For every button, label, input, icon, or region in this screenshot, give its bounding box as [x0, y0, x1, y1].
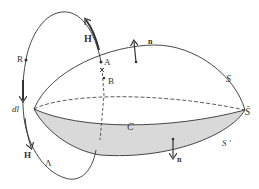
point-r: [25, 59, 28, 62]
point-b: [103, 77, 105, 79]
label-lambda: Λ: [45, 158, 52, 168]
normal-top-arrow: [134, 42, 136, 62]
label-dl: dl: [12, 104, 20, 114]
label-s-prime: S ': [222, 138, 232, 148]
label-a-top: A: [104, 57, 111, 67]
surface-s-prime: [34, 109, 245, 156]
boundary-c-back: [34, 97, 245, 110]
diagram-canvas: H A B R dl H Λ n n S S̄ S ' C: [0, 0, 259, 189]
label-h-bottom: H: [24, 150, 31, 160]
label-b: B: [108, 76, 114, 86]
label-n-top: n: [148, 37, 153, 46]
point-a: [100, 61, 103, 64]
h-arrow-bottom: [25, 118, 31, 147]
label-s: S: [226, 73, 231, 84]
label-s-bar: S̄: [245, 106, 250, 117]
label-c: C: [127, 121, 134, 132]
label-r: R: [17, 54, 23, 64]
label-n-bottom: n: [177, 155, 182, 164]
label-h-top: H: [84, 33, 92, 44]
